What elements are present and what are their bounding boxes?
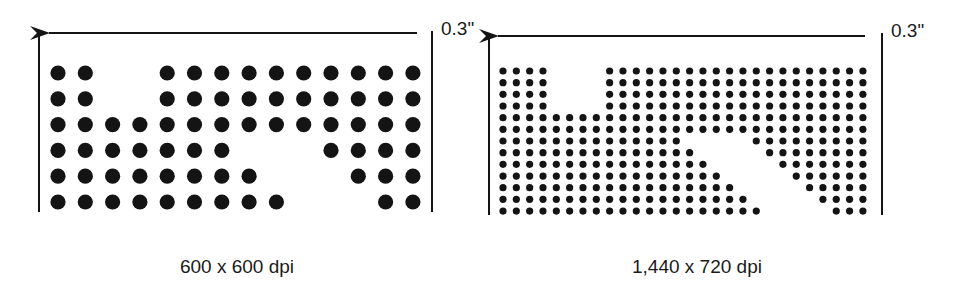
ink-dot xyxy=(846,196,853,203)
ink-dot xyxy=(673,184,680,191)
ink-dot xyxy=(296,117,311,132)
ink-dot xyxy=(713,184,720,191)
ink-dot xyxy=(713,91,720,98)
ink-dot xyxy=(833,79,840,86)
ink-dot xyxy=(833,196,840,203)
ink-dot xyxy=(673,207,680,214)
ink-dot xyxy=(859,196,866,203)
ink-dot xyxy=(659,102,666,109)
ink-dot xyxy=(846,67,853,74)
ink-dot xyxy=(526,126,533,133)
ink-dot xyxy=(699,102,706,109)
ink-dot xyxy=(214,143,229,158)
ink-dot xyxy=(566,184,573,191)
ink-dot xyxy=(566,207,573,214)
ink-dot xyxy=(726,114,733,121)
ink-dot xyxy=(793,67,800,74)
ink-dot xyxy=(539,149,546,156)
ink-dot xyxy=(859,67,866,74)
ink-dot xyxy=(539,126,546,133)
ink-dot xyxy=(833,184,840,191)
ink-dot xyxy=(160,117,175,132)
ink-dot xyxy=(539,196,546,203)
ink-dot xyxy=(699,67,706,74)
ink-dot xyxy=(378,143,393,158)
ink-dot xyxy=(739,102,746,109)
width-label: 0.3" xyxy=(441,18,474,39)
ink-dot xyxy=(659,114,666,121)
ink-dot xyxy=(846,126,853,133)
ink-dot xyxy=(499,67,506,74)
ink-dot xyxy=(819,149,826,156)
ink-dot xyxy=(646,137,653,144)
ink-dot xyxy=(50,169,65,184)
ink-dot xyxy=(673,161,680,168)
ink-dot xyxy=(50,194,65,209)
ink-dot xyxy=(160,194,175,209)
ink-dot xyxy=(606,79,613,86)
ink-dot xyxy=(187,117,202,132)
ink-dot xyxy=(699,161,706,168)
ink-dot xyxy=(819,91,826,98)
ink-dot xyxy=(673,137,680,144)
ink-dot xyxy=(351,91,366,106)
ink-dot xyxy=(859,137,866,144)
ink-dot xyxy=(699,184,706,191)
ink-dot xyxy=(793,126,800,133)
ink-dot xyxy=(269,65,284,80)
ink-dot xyxy=(779,161,786,168)
ink-dot xyxy=(619,184,626,191)
ink-dot xyxy=(859,172,866,179)
ink-dot xyxy=(579,207,586,214)
ink-dot xyxy=(646,196,653,203)
ink-dot xyxy=(539,67,546,74)
ink-dot xyxy=(513,161,520,168)
ink-dot xyxy=(793,137,800,144)
ink-dot xyxy=(646,79,653,86)
ink-dot xyxy=(606,184,613,191)
ink-dot xyxy=(659,79,666,86)
ink-dot xyxy=(753,114,760,121)
ink-dot xyxy=(405,143,420,158)
ink-dot xyxy=(526,161,533,168)
ink-dot xyxy=(553,149,560,156)
ink-dot xyxy=(659,207,666,214)
ink-dot xyxy=(686,91,693,98)
ink-dot xyxy=(753,102,760,109)
ink-dot xyxy=(105,169,120,184)
ink-dot xyxy=(513,91,520,98)
ink-dot xyxy=(766,114,773,121)
ink-dot xyxy=(405,117,420,132)
ink-dot xyxy=(726,184,733,191)
ink-dot xyxy=(659,161,666,168)
ink-dot xyxy=(846,91,853,98)
ink-dot xyxy=(699,126,706,133)
ink-dot xyxy=(859,79,866,86)
ink-dot xyxy=(726,126,733,133)
ink-dot xyxy=(686,126,693,133)
ink-dot xyxy=(673,79,680,86)
ink-dot xyxy=(633,196,640,203)
ink-dot xyxy=(606,161,613,168)
ink-dot xyxy=(846,172,853,179)
ink-dot xyxy=(859,207,866,214)
ink-dot xyxy=(566,137,573,144)
ink-dot xyxy=(499,137,506,144)
ink-dot xyxy=(499,114,506,121)
ink-dot xyxy=(579,184,586,191)
ink-dot xyxy=(846,149,853,156)
ink-dot xyxy=(214,65,229,80)
ink-dot xyxy=(78,169,93,184)
ink-dot xyxy=(606,137,613,144)
ink-dot xyxy=(539,184,546,191)
ink-dot xyxy=(405,91,420,106)
ink-dot xyxy=(819,102,826,109)
ink-dot xyxy=(513,184,520,191)
ink-dot xyxy=(806,126,813,133)
ink-dot xyxy=(726,196,733,203)
ink-dot xyxy=(726,79,733,86)
ink-dot xyxy=(351,117,366,132)
ink-dot xyxy=(378,91,393,106)
ink-dot xyxy=(323,65,338,80)
ink-dot xyxy=(646,184,653,191)
